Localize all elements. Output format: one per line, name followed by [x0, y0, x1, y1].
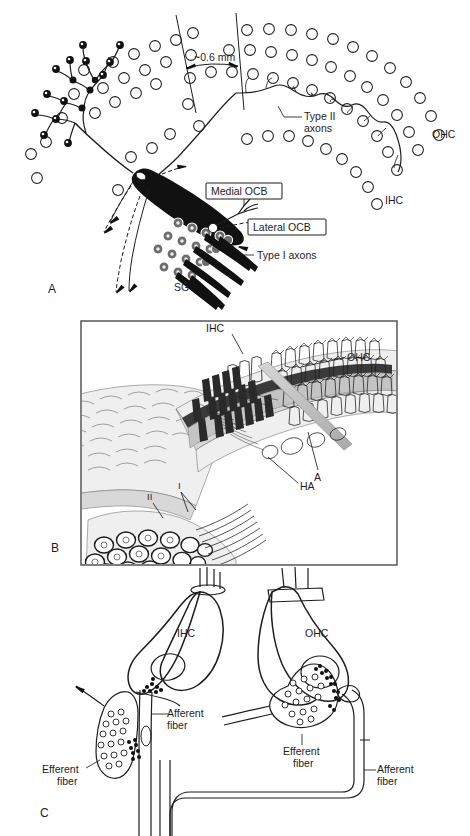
- afferent-right-label-line1: Afferent: [377, 763, 414, 775]
- efferent-left-label-line2: fiber: [57, 775, 78, 787]
- efferent-right-label-line1: Efferent: [283, 745, 320, 757]
- panel-a-ohc-label: OHC: [432, 128, 456, 140]
- type2-axons-label-line1: Type II: [304, 110, 336, 122]
- lateral-ocb-label: Lateral OCB: [253, 221, 311, 233]
- panel-c-ohc-label: OHC: [305, 627, 329, 639]
- panel-b-ohc-label: OHC: [347, 351, 371, 363]
- type2-axons-label-line2: axons: [304, 122, 332, 134]
- panel-a-letter: A: [48, 282, 56, 296]
- lateral-ocb-label-box: Lateral OCB: [248, 219, 326, 235]
- type1-axons-label: Type I axons: [257, 249, 317, 261]
- figure-canvas: ~0.6 mm Type II axons OHC IHC: [0, 0, 470, 836]
- distance-label: ~0.6 mm: [194, 51, 235, 63]
- cochlear-innervation-figure: ~0.6 mm Type II axons OHC IHC: [0, 0, 470, 836]
- panel-b-ihc-label: IHC: [206, 322, 225, 334]
- ocb-junction-marker: [208, 223, 217, 232]
- panel-b-type2-label: II: [147, 491, 152, 502]
- afferent-left-label-line2: fiber: [167, 719, 188, 731]
- sg-label: SG: [174, 281, 189, 293]
- medial-ocb-label-box: Medial OCB: [206, 183, 282, 199]
- panel-a-ihc-label: IHC: [385, 194, 404, 206]
- afferent-right-label-line2: fiber: [377, 775, 398, 787]
- panel-b-a-label: A: [314, 471, 321, 483]
- panel-c-ihc-label: IHC: [177, 627, 196, 639]
- panel-b-type1-label: I: [178, 480, 181, 491]
- panel-b-ha-label: HA: [300, 480, 315, 492]
- efferent-left-label-line1: Efferent: [42, 763, 79, 775]
- efferent-right-label-line2: fiber: [293, 757, 314, 769]
- medial-ocb-label: Medial OCB: [211, 185, 268, 197]
- panel-b-letter: B: [51, 541, 59, 555]
- panel-c-letter: C: [40, 806, 49, 820]
- afferent-left-label-line1: Afferent: [167, 707, 204, 719]
